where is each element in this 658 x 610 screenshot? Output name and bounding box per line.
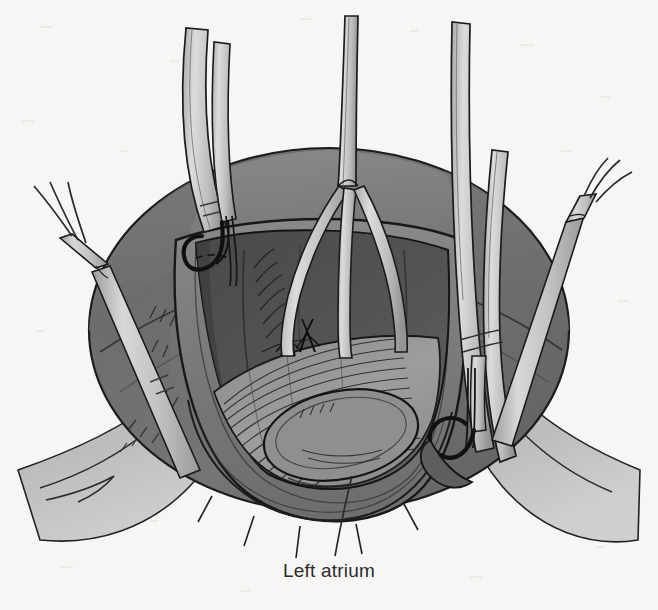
surgical-illustration <box>0 0 658 610</box>
page-title: Left atrium <box>0 560 658 582</box>
figure-left-atrium: Left atrium <box>0 0 658 610</box>
